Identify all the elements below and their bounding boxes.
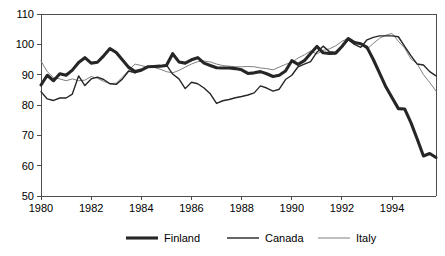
line-chart: 5060708090100110 19801982198419861988199… <box>0 0 445 256</box>
chart-canvas: 5060708090100110 19801982198419861988199… <box>0 0 445 256</box>
y-tick-label: 100 <box>16 38 34 50</box>
y-tick-label: 110 <box>16 8 34 20</box>
x-tick-label: 1990 <box>280 202 304 214</box>
y-tick-label: 90 <box>22 69 34 81</box>
y-tick-label: 80 <box>22 99 34 111</box>
x-tick-label: 1984 <box>129 202 153 214</box>
legend-label-finland: Finland <box>164 232 200 244</box>
legend-label-canada: Canada <box>265 232 304 244</box>
x-tick-label: 1982 <box>79 202 103 214</box>
x-tick-label: 1980 <box>29 202 53 214</box>
chart-background <box>0 0 445 256</box>
legend-label-italy: Italy <box>356 232 377 244</box>
x-tick-label: 1988 <box>229 202 253 214</box>
y-tick-label: 70 <box>22 129 34 141</box>
x-tick-label: 1992 <box>330 202 354 214</box>
y-tick-label: 50 <box>22 190 34 202</box>
x-tick-label: 1986 <box>179 202 203 214</box>
y-tick-label: 60 <box>22 160 34 172</box>
x-tick-label: 1994 <box>380 202 404 214</box>
